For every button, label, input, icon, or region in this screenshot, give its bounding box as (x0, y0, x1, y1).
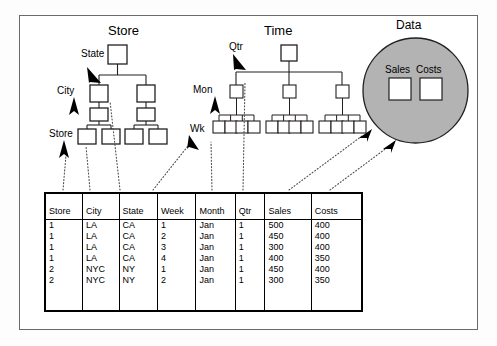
filler-cell (157, 286, 195, 310)
table-filler-row (46, 286, 361, 310)
table-row: 1 LA CA 3 Jan 1 300 400 (46, 242, 361, 253)
data-measure-box-sales (389, 78, 411, 100)
data-dimension-title: Data (396, 19, 421, 31)
column-header-costs: Costs (311, 194, 361, 220)
cell-month: Jan (196, 275, 235, 286)
fact-table: Store City State Week Month Qtr Sales Co… (44, 192, 363, 312)
arrowhead-mon (210, 96, 220, 114)
filler-cell (83, 286, 120, 310)
leader-state (110, 101, 120, 190)
leader-sales (289, 136, 362, 190)
cell-qtr: 1 (235, 242, 265, 253)
time-week-leaf-8 (301, 121, 313, 133)
fact-table-header-row: Store City State Week Month Qtr Sales Co… (46, 194, 361, 220)
store-dimension-title: Store (108, 24, 139, 37)
data-measure-box-costs (420, 78, 442, 100)
filler-cell (196, 286, 235, 310)
store-level-label-store: Store (49, 129, 73, 139)
leader-store (63, 155, 66, 190)
time-week-leaf-9 (319, 121, 331, 133)
cell-state: CA (119, 220, 157, 232)
time-week-leaf-11 (342, 121, 354, 133)
time-level-label-wk: Wk (190, 124, 204, 134)
cell-store: 2 (46, 264, 83, 275)
cell-week: 2 (157, 231, 195, 242)
time-week-leaf-3 (236, 121, 248, 133)
cell-state: CA (119, 242, 157, 253)
filler-cell (119, 286, 157, 310)
cell-month: Jan (196, 242, 235, 253)
cell-store: 1 (46, 242, 83, 253)
filler-cell (265, 286, 311, 310)
time-week-leaf-2 (225, 121, 237, 133)
column-header-store: Store (46, 194, 83, 220)
time-dimension-title: Time (264, 24, 292, 37)
column-header-qtr: Qtr (235, 194, 265, 220)
cell-week: 1 (157, 220, 195, 232)
cell-week: 2 (157, 275, 195, 286)
figure-root: .nd { fill:#ffffff; stroke:#231f20; stro… (0, 0, 497, 346)
cell-week: 1 (157, 264, 195, 275)
cell-sales: 450 (265, 264, 311, 275)
arrowhead-qtr (233, 54, 246, 70)
cell-state: NY (119, 275, 157, 286)
time-week-leaf-7 (289, 121, 301, 133)
cell-state: NY (119, 264, 157, 275)
cell-sales: 500 (265, 220, 311, 232)
time-level-label-mon: Mon (193, 85, 212, 95)
store-dimension-tree (78, 45, 167, 144)
arrowhead-store (59, 140, 69, 158)
time-week-leaf-12 (354, 121, 366, 133)
data-dimension-circle (363, 38, 468, 143)
cell-city: LA (83, 220, 120, 232)
store-leaf-node-2 (102, 129, 120, 144)
arrowhead-wk (187, 135, 199, 150)
data-measure-label-sales: Sales (385, 65, 410, 75)
filler-cell (311, 286, 361, 310)
time-month-node-3 (336, 85, 349, 98)
leader-city (86, 146, 90, 190)
cell-sales: 300 (265, 242, 311, 253)
arrowhead-city (69, 97, 79, 115)
cell-qtr: 1 (235, 253, 265, 264)
cell-city: LA (83, 253, 120, 264)
cell-state: CA (119, 231, 157, 242)
table-row: 1 LA CA 1 Jan 1 500 400 (46, 220, 361, 232)
time-month-node-2 (283, 85, 296, 98)
cell-city: NYC (83, 264, 120, 275)
time-level-label-qtr: Qtr (229, 42, 243, 52)
column-header-week: Week (157, 194, 195, 220)
data-circle-shape (363, 38, 468, 143)
filler-cell (46, 286, 83, 310)
cell-costs: 400 (311, 242, 361, 253)
cell-city: LA (83, 231, 120, 242)
cell-sales: 300 (265, 275, 311, 286)
cell-costs: 350 (311, 253, 361, 264)
store-leaf-node-1 (78, 129, 96, 144)
cell-store: 1 (46, 231, 83, 242)
store-level-label-city: City (57, 86, 74, 96)
cell-costs: 400 (311, 220, 361, 232)
store-city-node-2 (137, 108, 155, 121)
store-root-node (108, 45, 127, 64)
cell-store: 2 (46, 275, 83, 286)
cell-city: LA (83, 242, 120, 253)
column-header-sales: Sales (265, 194, 311, 220)
time-week-leaf-4 (248, 121, 260, 133)
cell-costs: 400 (311, 264, 361, 275)
cell-week: 3 (157, 242, 195, 253)
column-header-month: Month (196, 194, 235, 220)
time-month-node-1 (230, 85, 243, 98)
table-row: 1 LA CA 4 Jan 1 400 350 (46, 253, 361, 264)
table-row: 2 NYC NY 1 Jan 1 450 400 (46, 264, 361, 275)
store-city-node-1 (90, 108, 108, 121)
time-week-leaf-1 (213, 121, 225, 133)
cell-month: Jan (196, 264, 235, 275)
cell-city: NYC (83, 275, 120, 286)
leader-month (211, 142, 212, 190)
cell-sales: 450 (265, 231, 311, 242)
cell-store: 1 (46, 253, 83, 264)
store-state-node-2 (137, 85, 155, 102)
cell-month: Jan (196, 220, 235, 232)
data-measure-label-costs: Costs (416, 65, 442, 75)
